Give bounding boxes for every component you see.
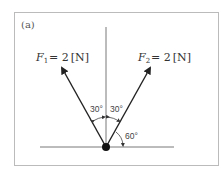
figure-tag: (a) xyxy=(21,19,35,30)
force-f1-label: F1= 2[N] xyxy=(35,51,89,65)
frame xyxy=(15,13,219,166)
force-diagram: (a) 30° 30° 60° F1= 2[N] F2= 2[N] xyxy=(0,0,224,179)
angle-arc-left xyxy=(93,117,104,121)
angle-60-label: 60° xyxy=(125,131,138,141)
angle-left-label: 30° xyxy=(90,104,103,114)
angle-right-label: 30° xyxy=(110,104,123,114)
angle-arc-60 xyxy=(116,132,123,145)
force-f2-label: F2= 2[N] xyxy=(137,51,191,65)
angle-arc-right xyxy=(108,117,119,121)
pivot-point xyxy=(102,143,110,151)
